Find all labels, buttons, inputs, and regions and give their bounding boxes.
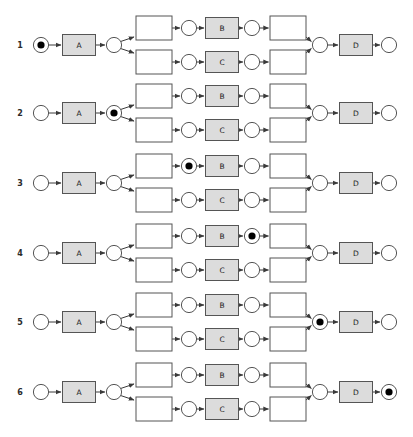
silent-transition-join-upper-rect: [270, 363, 306, 387]
row-number-label: 2: [17, 109, 23, 118]
arc: [306, 37, 311, 42]
place-after-b-circle: [244, 88, 259, 103]
silent-transition-split-upper-rect: [136, 84, 172, 108]
place-after-c: [244, 54, 259, 69]
silent-transition-join-upper-rect: [270, 154, 306, 178]
transition-b: B: [206, 156, 239, 177]
place-after-b: [244, 228, 259, 243]
transition-a-label: A: [76, 249, 82, 258]
arc: [121, 37, 134, 42]
silent-transition-join-lower-rect: [270, 397, 306, 421]
arc: [121, 314, 134, 319]
transition-a: A: [63, 312, 96, 333]
place-before-c: [181, 262, 196, 277]
transition-d: D: [340, 312, 373, 333]
start-place: [33, 245, 48, 260]
silent-transition-split-upper-rect: [136, 16, 172, 40]
silent-transition-join-upper: [270, 16, 306, 40]
token: [37, 41, 44, 48]
transition-b-label: B: [219, 232, 224, 241]
silent-transition-split-upper: [136, 16, 172, 40]
silent-transition-split-lower: [136, 188, 172, 212]
transition-b: B: [206, 226, 239, 247]
place-before-b: [181, 367, 196, 382]
place-before-c: [181, 401, 196, 416]
place-before-c-circle: [181, 122, 196, 137]
end-place-circle: [381, 105, 396, 120]
place-after-c-circle: [244, 262, 259, 277]
silent-transition-split-upper: [136, 224, 172, 248]
silent-transition-join-lower-rect: [270, 118, 306, 142]
silent-transition-split-upper-rect: [136, 293, 172, 317]
sequence-row: 6ABCD: [17, 363, 396, 421]
end-place-circle: [381, 314, 396, 329]
transition-c: C: [206, 260, 239, 281]
silent-transition-join-upper-rect: [270, 16, 306, 40]
arc: [306, 175, 311, 180]
arc: [121, 105, 134, 110]
transition-c-label: C: [219, 266, 224, 275]
silent-transition-split-upper: [136, 154, 172, 178]
sequence-row: 4ABCD: [17, 224, 396, 282]
join-place: [312, 37, 327, 52]
silent-transition-split-lower: [136, 327, 172, 351]
start-place: [33, 384, 48, 399]
transition-d: D: [340, 382, 373, 403]
start-place-circle: [33, 105, 48, 120]
row-number-label: 6: [17, 388, 23, 397]
place-before-c-circle: [181, 401, 196, 416]
token: [248, 232, 255, 239]
place-before-b: [181, 88, 196, 103]
silent-transition-split-upper: [136, 363, 172, 387]
place-after-b-circle: [244, 20, 259, 35]
arc: [306, 326, 311, 331]
silent-transition-join-upper-rect: [270, 293, 306, 317]
token: [385, 388, 392, 395]
join-place: [312, 105, 327, 120]
arc: [306, 314, 311, 319]
join-place-circle: [312, 37, 327, 52]
place-after-b: [244, 158, 259, 173]
place-after-c-circle: [244, 192, 259, 207]
transition-c-label: C: [219, 58, 224, 67]
arc: [306, 49, 311, 54]
place-before-c: [181, 192, 196, 207]
join-place: [312, 245, 327, 260]
arc: [121, 187, 134, 192]
petri-net-sequence-svg: 1ABCD2ABCD3ABCD4ABCD5ABCD6ABCD: [0, 0, 413, 437]
transition-b-label: B: [219, 24, 224, 33]
transition-c: C: [206, 52, 239, 73]
silent-transition-join-lower-rect: [270, 327, 306, 351]
transition-c: C: [206, 120, 239, 141]
place-before-b-circle: [181, 367, 196, 382]
token: [316, 318, 323, 325]
transition-a-label: A: [76, 41, 82, 50]
place-before-c-circle: [181, 331, 196, 346]
transition-b: B: [206, 18, 239, 39]
transition-a: A: [63, 103, 96, 124]
silent-transition-split-upper: [136, 84, 172, 108]
token: [185, 162, 192, 169]
transition-c-label: C: [219, 196, 224, 205]
silent-transition-split-lower-rect: [136, 50, 172, 74]
transition-d-label: D: [353, 388, 359, 397]
transition-c: C: [206, 190, 239, 211]
arc: [121, 117, 134, 122]
silent-transition-join-lower: [270, 50, 306, 74]
end-place: [381, 245, 396, 260]
place-before-b-circle: [181, 228, 196, 243]
arc: [306, 396, 311, 401]
transition-d: D: [340, 173, 373, 194]
start-place-circle: [33, 384, 48, 399]
silent-transition-join-lower: [270, 397, 306, 421]
arc: [121, 49, 134, 54]
silent-transition-split-upper: [136, 293, 172, 317]
end-place: [381, 384, 396, 399]
silent-transition-split-lower-rect: [136, 327, 172, 351]
place-after-b: [244, 88, 259, 103]
end-place-circle: [381, 245, 396, 260]
transition-a: A: [63, 382, 96, 403]
place-after-b-circle: [244, 297, 259, 312]
silent-transition-split-upper-rect: [136, 154, 172, 178]
place-before-c-circle: [181, 192, 196, 207]
